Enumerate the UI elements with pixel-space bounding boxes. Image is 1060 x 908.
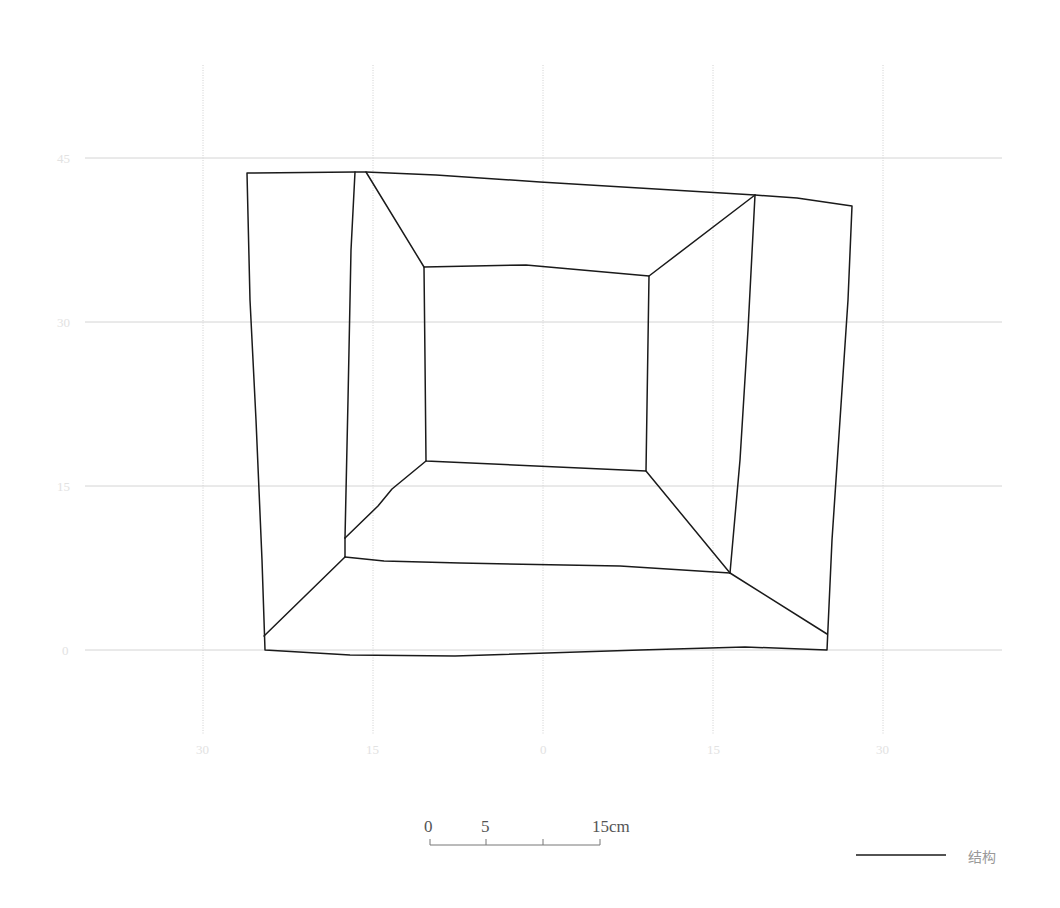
scale-label-15cm: 15cm (592, 817, 630, 837)
x-tick-label: 15 (366, 742, 379, 757)
y-axis-labels: 45 30 15 0 (57, 151, 70, 658)
y-tick-label: 15 (57, 479, 70, 494)
y-tick-label: 0 (62, 643, 69, 658)
x-tick-label: 30 (196, 742, 209, 757)
scale-bar (430, 839, 600, 845)
scale-label-5: 5 (481, 817, 490, 837)
diagonal-top-left (366, 172, 424, 267)
x-tick-label: 0 (540, 742, 547, 757)
structure-diagram: 45 30 15 0 30 15 0 15 30 (0, 0, 1060, 908)
outer-boundary (247, 172, 852, 656)
y-tick-label: 30 (57, 315, 70, 330)
diagonal-inner-bottom-left (345, 461, 426, 538)
left-inner-wall (345, 172, 355, 538)
lower-ledge (345, 557, 730, 573)
inner-rectangle (424, 265, 649, 471)
x-axis-labels: 30 15 0 15 30 (196, 742, 889, 757)
scale-label-0: 0 (424, 817, 433, 837)
diagonal-outer-bottom-right (730, 573, 827, 634)
diagonal-outer-bottom-left (264, 557, 345, 636)
structure (247, 172, 852, 656)
right-inner-wall (730, 195, 755, 573)
legend-label-structure: 结构 (968, 846, 996, 866)
x-tick-label: 15 (707, 742, 720, 757)
diagonal-top-right (649, 195, 755, 276)
x-tick-label: 30 (876, 742, 889, 757)
grid (85, 65, 1002, 735)
y-tick-label: 45 (57, 151, 70, 166)
